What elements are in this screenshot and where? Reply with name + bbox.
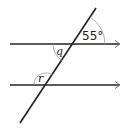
- angle-55-label: 55°: [82, 29, 103, 43]
- angle-q-label: q: [56, 45, 63, 58]
- angle-r-label: r: [38, 72, 44, 85]
- transversal-line: [20, 8, 96, 123]
- parallel-lines-diagram: 55° q r: [0, 0, 130, 129]
